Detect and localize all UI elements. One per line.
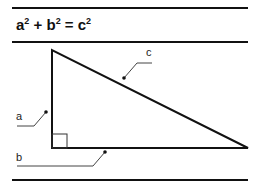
side-label-a: a xyxy=(16,110,23,122)
bottom-rule xyxy=(12,179,248,181)
right-triangle-diagram: a b c xyxy=(0,0,258,191)
leader-dot-c xyxy=(122,76,126,80)
side-label-c: c xyxy=(146,46,152,58)
triangle xyxy=(52,50,248,148)
leader-dot-a xyxy=(44,110,48,114)
leader-b xyxy=(17,152,105,166)
right-angle-marker xyxy=(52,134,67,148)
side-label-b: b xyxy=(16,151,22,163)
leader-c xyxy=(124,63,152,78)
leader-dot-b xyxy=(103,150,107,154)
